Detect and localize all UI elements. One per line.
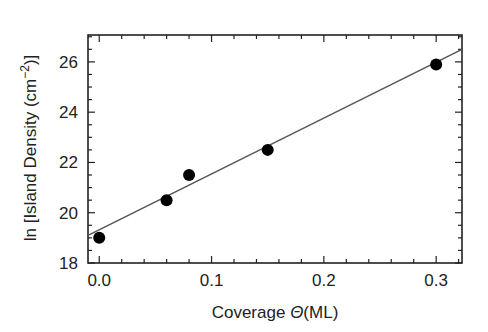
x-tick-label: 0.2	[312, 271, 336, 290]
plot-frame	[88, 35, 462, 263]
data-point	[93, 232, 105, 244]
y-tick-label: 20	[59, 204, 78, 223]
x-axis-title: Coverage Θ(ML)	[212, 303, 339, 322]
chart: 0.00.10.20.3 1820222426 Coverage Θ(ML) l…	[0, 0, 488, 332]
y-tick-label: 22	[59, 153, 78, 172]
y-tick-label: 24	[59, 103, 78, 122]
y-tick-label: 18	[59, 254, 78, 273]
data-point	[183, 169, 195, 181]
y-axis-title: ln [Island Density (cm−2)]	[18, 55, 40, 242]
data-point	[430, 58, 442, 70]
data-point	[161, 194, 173, 206]
y-tick-label: 26	[59, 53, 78, 72]
plot-area	[88, 35, 462, 263]
data-point	[262, 144, 274, 156]
x-tick-label: 0.0	[87, 271, 111, 290]
x-tick-label: 0.3	[424, 271, 448, 290]
x-tick-label: 0.1	[200, 271, 224, 290]
